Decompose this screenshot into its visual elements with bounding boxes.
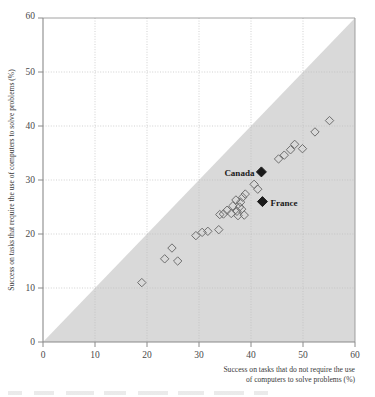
y-axis-ticks: [38, 18, 43, 342]
page-footer-artifact: [8, 391, 268, 395]
y-tick-label-60: 60: [26, 11, 36, 21]
x-tick-label-30: 30: [194, 350, 204, 360]
x-tick-label-0: 0: [41, 350, 46, 360]
scatter-plot-svg: 0 10 20 30 40 50 60 0 10 20 30 40 50 60 …: [0, 0, 375, 397]
y-tick-label-30: 30: [26, 175, 36, 185]
y-tick-label-50: 50: [26, 67, 36, 77]
x-axis-title-line1: Success on tasks that do not require the…: [223, 365, 355, 374]
annotation-label-france: France: [270, 198, 297, 208]
x-axis-title-line2: of computers to solve problems (%): [246, 375, 356, 384]
y-tick-label-20: 20: [26, 229, 36, 239]
scatter-plot-figure: 0 10 20 30 40 50 60 0 10 20 30 40 50 60 …: [0, 0, 375, 397]
annotation-label-canada: Canada: [224, 168, 255, 178]
x-axis-ticks: [43, 342, 355, 347]
y-tick-label-0: 0: [30, 337, 35, 347]
x-tick-label-50: 50: [298, 350, 308, 360]
y-tick-label-40: 40: [26, 121, 36, 131]
y-axis-title: Success on tasks that require the use of…: [7, 69, 16, 291]
x-tick-label-20: 20: [142, 350, 152, 360]
y-tick-label-10: 10: [26, 283, 36, 293]
x-tick-label-60: 60: [350, 350, 360, 360]
x-tick-label-40: 40: [246, 350, 256, 360]
x-tick-label-10: 10: [90, 350, 100, 360]
